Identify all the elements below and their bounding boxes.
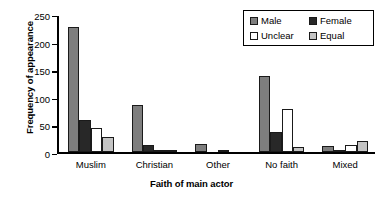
bar — [345, 145, 356, 152]
bar-chart: Frequency of appearance 050100150200250 … — [0, 0, 383, 198]
bar — [91, 128, 102, 152]
legend-label-unclear: Unclear — [261, 30, 294, 41]
legend-item-unclear: Unclear — [250, 30, 309, 41]
legend: Male Female Unclear Equal — [243, 10, 374, 46]
bar — [282, 109, 293, 153]
legend-row: Male Female — [250, 15, 368, 26]
y-tick-label: 150 — [34, 66, 50, 77]
bar — [166, 150, 177, 152]
bar — [132, 105, 143, 152]
legend-label-equal: Equal — [320, 30, 344, 41]
bar — [195, 144, 206, 152]
y-tick-label: 200 — [34, 38, 50, 49]
legend-label-female: Female — [320, 15, 352, 26]
y-tick-label: 0 — [45, 149, 50, 160]
bar — [68, 27, 79, 152]
legend-swatch-male-icon — [250, 17, 258, 25]
legend-swatch-female-icon — [309, 17, 317, 25]
y-tick-label: 100 — [34, 93, 50, 104]
bar — [218, 150, 229, 152]
y-axis-title: Frequency of appearance — [24, 3, 35, 153]
bar — [102, 137, 113, 152]
legend-swatch-unclear-icon — [250, 32, 258, 40]
legend-item-male: Male — [250, 15, 309, 26]
x-tick-label: Mixed — [333, 159, 358, 170]
x-tick-label: Other — [206, 159, 230, 170]
bar — [357, 141, 368, 152]
x-axis-line — [57, 152, 375, 154]
legend-row: Unclear Equal — [250, 30, 368, 41]
legend-item-equal: Equal — [309, 30, 368, 41]
y-tick-label: 250 — [34, 11, 50, 22]
x-tick-label: Muslim — [76, 159, 106, 170]
bar — [79, 120, 90, 153]
x-tick-label: No faith — [265, 159, 298, 170]
legend-swatch-equal-icon — [309, 32, 317, 40]
legend-label-male: Male — [261, 15, 282, 26]
y-tick-label: 50 — [39, 121, 50, 132]
bar — [334, 150, 345, 152]
y-tick-mark — [52, 154, 57, 155]
bar — [259, 76, 270, 152]
bar — [322, 146, 333, 153]
x-tick-label: Christian — [136, 159, 174, 170]
legend-item-female: Female — [309, 15, 368, 26]
bar — [154, 150, 165, 152]
x-axis-title: Faith of main actor — [0, 178, 383, 189]
bar — [293, 147, 304, 152]
bar — [270, 132, 281, 152]
bar — [143, 145, 154, 153]
